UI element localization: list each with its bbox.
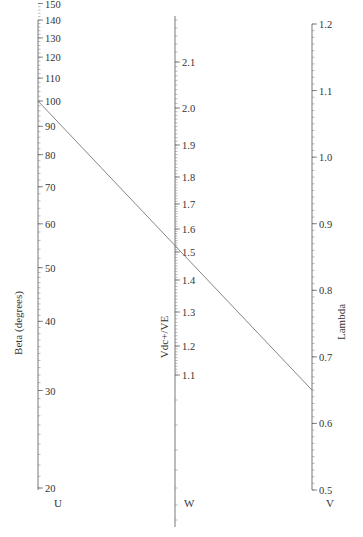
tick-label: 150 — [45, 0, 61, 10]
tick-label: 50 — [45, 263, 56, 274]
tick-label: 1.6 — [182, 224, 195, 235]
tick-label: 1.3 — [182, 307, 195, 318]
axis-vdc-ve: 1.11.21.31.41.51.61.71.81.92.02.1 — [175, 16, 196, 527]
tick-label: 0.8 — [319, 285, 332, 296]
tick-label: 0.5 — [319, 485, 332, 496]
tick-label: 1.8 — [182, 172, 195, 183]
tick-label: 40 — [45, 316, 56, 327]
axis-label-beta: Beta (degrees) — [12, 291, 25, 355]
axis-letter-w: W — [184, 497, 195, 509]
tick-label: 1.7 — [182, 199, 195, 210]
tick-label: 20 — [45, 483, 56, 494]
tick-label: 110 — [45, 73, 60, 84]
tick-label: 1.4 — [182, 275, 196, 286]
tick-label: 0.6 — [319, 418, 332, 429]
tick-label: 30 — [45, 386, 56, 397]
tick-label: 1.0 — [319, 152, 332, 163]
axis-letter-u: U — [54, 497, 62, 509]
tick-label: 100 — [45, 96, 61, 107]
tick-label: 1.1 — [182, 370, 195, 381]
axis-label-lambda: Lambda — [335, 304, 347, 340]
tick-label: 1.1 — [319, 86, 332, 97]
nomogram-chart: 2030405060708090100110120130140150 1.11.… — [0, 0, 363, 537]
tick-label: 2.0 — [182, 103, 195, 114]
tick-label: 1.2 — [319, 19, 332, 30]
tick-label: 0.9 — [319, 219, 332, 230]
axis-letter-v: V — [326, 497, 334, 509]
tick-label: 1.2 — [182, 341, 195, 352]
tick-label: 0.7 — [319, 352, 332, 363]
tick-label: 120 — [45, 52, 61, 63]
tick-label: 140 — [45, 15, 61, 26]
tick-label: 2.1 — [182, 57, 195, 68]
axis-lambda: 0.50.60.70.80.91.01.11.2 — [312, 19, 332, 496]
tick-label: 90 — [45, 121, 56, 132]
tick-label: 70 — [45, 182, 56, 193]
tick-label: 1.5 — [182, 247, 195, 258]
axis-label-vdc-ve: Vdc+/VE — [158, 316, 170, 359]
tick-label: 80 — [45, 150, 56, 161]
tick-label: 130 — [45, 33, 61, 44]
tick-label: 1.9 — [182, 140, 195, 151]
tick-label: 60 — [45, 219, 56, 230]
axis-beta: 2030405060708090100110120130140150 — [38, 0, 61, 494]
